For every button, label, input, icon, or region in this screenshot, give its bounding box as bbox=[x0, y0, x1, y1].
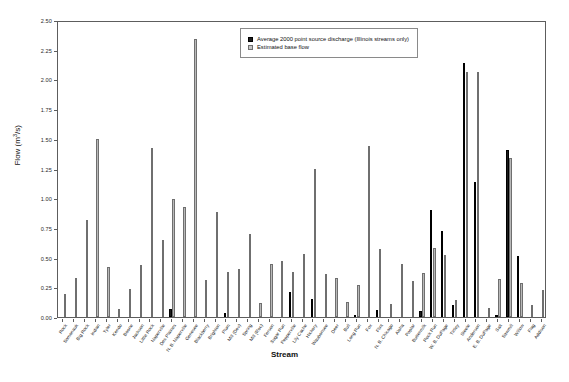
x-tick-mark bbox=[443, 319, 444, 322]
x-tick-mark bbox=[171, 319, 172, 322]
bar-base-flow bbox=[335, 278, 337, 317]
x-tick-label: Fox bbox=[364, 323, 373, 332]
bar-base-flow bbox=[390, 304, 392, 317]
bar-group bbox=[243, 22, 254, 317]
bar-group bbox=[156, 22, 167, 317]
x-tick-mark bbox=[432, 319, 433, 322]
y-tick-label: 0.00 bbox=[41, 315, 52, 321]
x-tick-mark bbox=[258, 319, 259, 322]
x-tick-mark bbox=[486, 319, 487, 322]
x-tick-mark bbox=[117, 319, 118, 322]
x-tick-label: Bull bbox=[342, 323, 351, 332]
bar-base-flow bbox=[259, 303, 261, 317]
bar-group bbox=[536, 22, 547, 317]
x-tick-mark bbox=[323, 319, 324, 322]
bar-group bbox=[427, 22, 438, 317]
bar-base-flow bbox=[477, 72, 479, 317]
bar-point-source bbox=[463, 63, 465, 317]
bar-base-flow bbox=[162, 240, 164, 317]
bar-base-flow bbox=[542, 290, 544, 317]
bar-base-flow bbox=[64, 294, 66, 317]
plot-area bbox=[57, 21, 546, 318]
x-tick-mark bbox=[475, 319, 476, 322]
x-tick-mark bbox=[345, 319, 346, 322]
x-tick-label: Tyler bbox=[102, 323, 112, 334]
bar-group bbox=[308, 22, 319, 317]
bar-base-flow bbox=[151, 148, 153, 317]
y-axis-title: Flow (m3/s) bbox=[12, 100, 23, 190]
x-tick-label: Deer bbox=[330, 323, 340, 334]
bar-group bbox=[351, 22, 362, 317]
x-tick-label: Tinley bbox=[449, 323, 460, 336]
bar-group bbox=[373, 22, 384, 317]
bar-group bbox=[232, 22, 243, 317]
legend-item-point-source: Average 2000 point source discharge (Ill… bbox=[248, 36, 409, 42]
bar-group bbox=[91, 22, 102, 317]
bar-point-source bbox=[419, 311, 421, 317]
x-tick-mark bbox=[236, 319, 237, 322]
x-tick-mark bbox=[378, 319, 379, 322]
bar-group bbox=[482, 22, 493, 317]
y-tick-label: 1.75 bbox=[41, 107, 52, 113]
x-axis-title: Stream bbox=[0, 350, 569, 359]
bar-point-source bbox=[495, 315, 497, 317]
bar-group bbox=[330, 22, 341, 317]
x-tick-mark bbox=[225, 319, 226, 322]
bar-group bbox=[134, 22, 145, 317]
bar-base-flow bbox=[107, 267, 109, 317]
x-tick-mark bbox=[421, 319, 422, 322]
bar-point-source bbox=[430, 210, 432, 317]
bar-point-source bbox=[289, 292, 291, 317]
y-tick-label: 0.25 bbox=[41, 285, 52, 291]
bar-base-flow bbox=[205, 280, 207, 317]
x-tick-mark bbox=[410, 319, 411, 322]
bar-base-flow bbox=[520, 283, 522, 317]
bar-group bbox=[199, 22, 210, 317]
x-tick-mark bbox=[204, 319, 205, 322]
bar-group bbox=[504, 22, 515, 317]
bar-group bbox=[406, 22, 417, 317]
bar-point-source bbox=[376, 310, 378, 317]
x-tick-mark bbox=[302, 319, 303, 322]
bar-base-flow bbox=[249, 234, 251, 317]
bar-base-flow bbox=[281, 261, 283, 317]
bar-group bbox=[460, 22, 471, 317]
y-tick-label: 1.50 bbox=[41, 137, 52, 143]
y-tick-label: 1.25 bbox=[41, 167, 52, 173]
x-tick-mark bbox=[541, 319, 542, 322]
legend-swatch-dark-icon bbox=[248, 37, 253, 42]
bar-group bbox=[514, 22, 525, 317]
bar-group bbox=[438, 22, 449, 317]
x-tick-mark bbox=[139, 319, 140, 322]
chart-figure: 0.000.250.500.751.001.251.501.752.002.25… bbox=[0, 0, 569, 382]
bar-group bbox=[264, 22, 275, 317]
bar-base-flow bbox=[509, 158, 511, 317]
bar-base-flow bbox=[86, 220, 88, 317]
x-tick-mark bbox=[62, 319, 63, 322]
bar-group bbox=[145, 22, 156, 317]
bar-group bbox=[112, 22, 123, 317]
x-tick-label: Willow bbox=[513, 323, 525, 337]
y-tick-label: 2.25 bbox=[41, 48, 52, 54]
bar-point-source bbox=[474, 182, 476, 317]
bar-base-flow bbox=[129, 289, 131, 318]
bar-group bbox=[319, 22, 330, 317]
bar-base-flow bbox=[444, 255, 446, 317]
bar-base-flow bbox=[455, 300, 457, 317]
x-tick-mark bbox=[182, 319, 183, 322]
x-tick-mark bbox=[399, 319, 400, 322]
legend-swatch-light-icon bbox=[248, 45, 253, 50]
x-tick-label: Flag bbox=[526, 323, 535, 333]
x-tick-label: Salt bbox=[494, 323, 503, 333]
x-tick-mark bbox=[530, 319, 531, 322]
bar-group bbox=[275, 22, 286, 317]
chart-legend: Average 2000 point source discharge (Ill… bbox=[240, 28, 418, 58]
bar-group bbox=[178, 22, 189, 317]
y-axis: 0.000.250.500.751.001.251.501.752.002.25… bbox=[0, 21, 57, 319]
bar-base-flow bbox=[401, 264, 403, 317]
x-tick-mark bbox=[95, 319, 96, 322]
bar-point-source bbox=[169, 309, 171, 317]
x-tick-mark bbox=[280, 319, 281, 322]
x-tick-mark bbox=[519, 319, 520, 322]
x-tick-mark bbox=[367, 319, 368, 322]
